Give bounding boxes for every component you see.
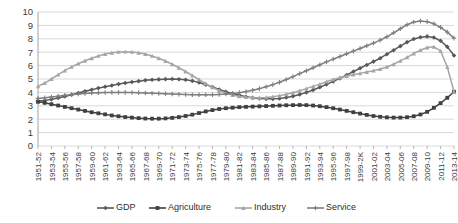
x-axis-tick-label: 1951-52 — [34, 151, 43, 181]
x-axis-tick-label: 2001-02 — [370, 151, 379, 181]
x-axis-tick-label: 1993-94 — [316, 151, 325, 181]
x-axis-tick-label: 1961-62 — [101, 151, 110, 181]
x-axis-tick-label: 2009-10 — [423, 151, 432, 181]
series-group — [36, 19, 457, 121]
y-axis-tick-label: 6 — [28, 60, 33, 71]
y-axis-tick-label: 10 — [22, 6, 33, 17]
x-axis-tick-label: 1959-60 — [88, 151, 97, 181]
y-axis-tick-label: 8 — [28, 33, 33, 44]
x-axis-tick-label: 1977-78 — [209, 151, 218, 181]
legend-label: Service — [326, 202, 356, 212]
legend-item-industry[interactable]: Industry — [235, 202, 287, 212]
y-axis-tick-label: 0 — [28, 140, 33, 151]
line-chart: 012345678910 1951-521953-541955-561957-5… — [0, 0, 458, 223]
x-axis-tick-label: 1989-90 — [289, 151, 298, 181]
x-axis-tick-label: 2003-04 — [383, 151, 392, 181]
x-axis-tick-label: 1953-54 — [48, 151, 57, 181]
legend-label: Agriculture — [168, 202, 211, 212]
x-axis-tick-label: 1955-56 — [61, 151, 70, 181]
x-axis-tick-label: 1963-64 — [115, 151, 124, 181]
x-axis-tick-label: 1975-76 — [195, 151, 204, 181]
x-axis-tick-label: 1991-92 — [303, 151, 312, 181]
x-axis-tick-label: 1981-82 — [235, 151, 244, 181]
x-axis-tick-label: 1971-72 — [168, 151, 177, 181]
legend-item-agriculture[interactable]: Agriculture — [149, 202, 211, 212]
x-axis-tick-label: 1979-80 — [222, 151, 231, 181]
legend-label: GDP — [116, 202, 136, 212]
x-axis-tick-label: 1997-98 — [343, 151, 352, 181]
chart-legend: GDPAgricultureIndustryService — [97, 202, 356, 212]
y-axis-tick-label: 9 — [28, 20, 33, 31]
y-axis-tick-labels: 012345678910 — [22, 6, 33, 151]
x-axis-tick-label: 1967-68 — [142, 151, 151, 181]
y-axis-tick-label: 1 — [28, 127, 33, 138]
legend-item-gdp[interactable]: GDP — [97, 202, 136, 212]
y-axis-tick-label: 4 — [28, 87, 33, 98]
x-axis-tick-label: 2013-14 — [450, 151, 458, 181]
x-axis-tick-label: 1999-2K — [356, 151, 365, 182]
x-axis-tick-label: 1983-84 — [249, 151, 258, 181]
y-axis-tick-label: 2 — [28, 114, 33, 125]
x-axis-tick-labels: 1951-521953-541955-561957-581959-601961-… — [34, 146, 458, 182]
x-axis-tick-label: 1985-86 — [262, 151, 271, 181]
y-axis-tick-label: 3 — [28, 100, 33, 111]
chart-canvas: 012345678910 1951-521953-541955-561957-5… — [0, 0, 458, 223]
x-axis-tick-label: 1995-96 — [329, 151, 338, 181]
legend-item-service[interactable]: Service — [307, 202, 356, 212]
x-axis-tick-label: 2005-06 — [397, 151, 406, 181]
x-axis-tick-label: 1973-74 — [182, 151, 191, 181]
x-axis-tick-label: 2007-08 — [410, 151, 419, 181]
gridlines — [38, 12, 454, 146]
x-axis-tick-label: 1965-66 — [128, 151, 137, 181]
y-axis-tick-label: 7 — [28, 47, 33, 58]
legend-label: Industry — [254, 202, 287, 212]
y-axis-tick-label: 5 — [28, 73, 33, 84]
x-axis-tick-label: 1969-70 — [155, 151, 164, 181]
x-axis-tick-label: 1957-58 — [74, 151, 83, 181]
x-axis-tick-label: 2011-12 — [437, 151, 446, 180]
x-axis-tick-label: 1987-88 — [276, 151, 285, 181]
